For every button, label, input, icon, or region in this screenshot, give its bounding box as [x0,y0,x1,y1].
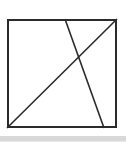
figure-canvas [0,0,126,145]
square-with-crossing-lines-figure [0,0,126,145]
diagonal-line-bottomleft-to-topright [7,19,117,128]
bottom-gray-band-edge [0,141,126,142]
slanted-line-top-to-bottom [65,19,104,128]
